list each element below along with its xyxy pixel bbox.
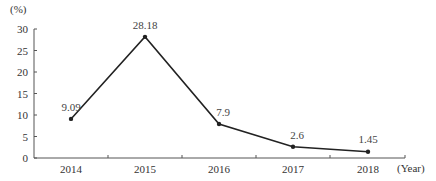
data-point-marker xyxy=(366,150,370,154)
y-tick-label: 25 xyxy=(17,45,29,57)
line-chart: 05101520253020142015201620172018 9.0928.… xyxy=(0,0,436,181)
x-tick-label: 2014 xyxy=(60,163,83,175)
data-label: 28.18 xyxy=(133,19,158,31)
data-point-marker xyxy=(69,117,73,121)
chart-axes: 05101520253020142015201620172018 xyxy=(17,23,405,175)
data-label: 1.45 xyxy=(358,133,378,145)
data-label: 7.9 xyxy=(216,106,230,118)
x-tick-label: 2016 xyxy=(208,163,231,175)
data-point-marker xyxy=(217,122,221,126)
x-tick-label: 2015 xyxy=(134,163,157,175)
plot-area: 9.0928.187.92.61.45 xyxy=(61,19,378,154)
y-tick-label: 5 xyxy=(23,131,29,143)
data-point-marker xyxy=(291,145,295,149)
x-tick-label: 2017 xyxy=(282,163,305,175)
y-tick-label: 15 xyxy=(17,88,29,100)
y-tick-label: 10 xyxy=(17,109,29,121)
y-tick-label: 20 xyxy=(17,66,29,78)
y-tick-label: 0 xyxy=(23,152,29,164)
y-tick-label: 30 xyxy=(17,23,29,35)
data-point-marker xyxy=(143,35,147,39)
data-label: 9.09 xyxy=(61,101,81,113)
x-tick-label: 2018 xyxy=(357,163,380,175)
data-label: 2.6 xyxy=(290,129,304,141)
x-axis-label: (Year) xyxy=(397,162,425,175)
y-axis-label: (%) xyxy=(10,3,27,16)
data-line xyxy=(71,37,368,152)
